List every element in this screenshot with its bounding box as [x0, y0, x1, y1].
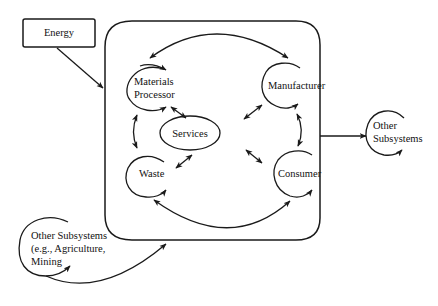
materials-processor-label-line2: Processor	[134, 89, 175, 100]
node-consumer: Consumer	[274, 151, 322, 197]
services-label: Services	[172, 128, 208, 139]
energy-label: Energy	[44, 27, 75, 38]
node-waste: Waste	[126, 156, 166, 197]
arrow-processor-services	[171, 107, 186, 118]
arrow-processor-waste	[134, 115, 138, 148]
system-diagram: Energy Materials Processor Manufacturer …	[0, 0, 438, 306]
energy-arrow	[57, 48, 103, 88]
arrow-waste-services	[176, 155, 192, 168]
other-subsystems-label-line2: Subsystems	[373, 133, 423, 144]
waste-label: Waste	[139, 168, 165, 179]
consumer-label: Consumer	[278, 168, 322, 179]
other-subsystems-input-line3: Mining	[31, 256, 63, 267]
arrow-manufacturer-services	[244, 105, 262, 119]
system-boundary-outline	[105, 21, 320, 240]
arc-processor-manufacturer	[150, 34, 288, 58]
other-subsystems-input-line1: Other Subsystems	[31, 230, 107, 241]
arc-waste-consumer	[154, 200, 290, 228]
node-other-subsystems: Other Subsystems	[366, 111, 423, 155]
node-materials-processor: Materials Processor	[127, 65, 175, 111]
node-manufacturer: Manufacturer	[262, 63, 326, 108]
materials-processor-label-line1: Materials	[134, 76, 174, 87]
arrow-consumer-services	[246, 150, 262, 163]
manufacturer-label: Manufacturer	[268, 80, 326, 91]
energy-box: Energy	[23, 19, 95, 47]
node-other-subsystems-input: Other Subsystems (e.g., Agriculture, Min…	[19, 218, 107, 276]
other-subsystems-label-line1: Other	[373, 120, 397, 131]
arrow-manufacturer-consumer	[297, 114, 301, 146]
other-subsystems-input-line2: (e.g., Agriculture,	[31, 243, 105, 255]
node-services: Services	[160, 116, 220, 150]
